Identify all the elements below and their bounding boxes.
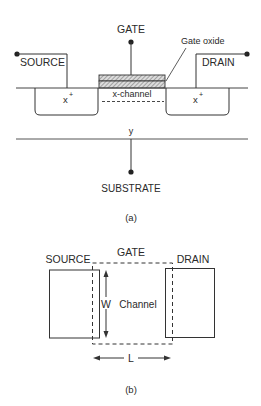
length-arrow-left-icon xyxy=(93,356,100,361)
source-region-label: x xyxy=(63,94,68,105)
gate-label-b: GATE xyxy=(117,246,145,258)
x-channel-label: x-channel xyxy=(112,89,151,99)
substrate: y SUBSTRATE xyxy=(16,126,248,194)
gate-oxide-label: Gate oxide xyxy=(181,36,225,46)
source-region: x + xyxy=(35,88,98,115)
drain-doping-superscript: + xyxy=(199,91,203,98)
y-label: y xyxy=(129,126,134,136)
figure-a-cross-section: GATE Gate oxide SOURCE x + xyxy=(14,23,249,223)
caption-a: (a) xyxy=(125,212,137,223)
channel-region: x-channel xyxy=(102,89,164,102)
mosfet-diagram: GATE Gate oxide SOURCE x + xyxy=(0,0,261,406)
source-label: SOURCE xyxy=(20,56,65,68)
gate-electrode xyxy=(99,75,165,81)
drain-label: DRAIN xyxy=(202,56,235,68)
drain-terminal: DRAIN xyxy=(196,51,250,88)
source-terminal: SOURCE xyxy=(14,51,67,88)
width-dimension: W xyxy=(100,270,112,338)
caption-b: (b) xyxy=(125,384,137,395)
width-arrow-up-icon xyxy=(104,270,109,277)
source-label-b: SOURCE xyxy=(46,253,91,265)
gate-stack xyxy=(99,75,165,88)
gate-oxide-layer xyxy=(99,81,165,88)
gate-terminal: GATE xyxy=(117,23,145,75)
width-label: W xyxy=(101,298,111,310)
width-arrow-down-icon xyxy=(104,331,109,338)
drain-region: x + xyxy=(166,88,229,115)
drain-label-b: DRAIN xyxy=(177,253,210,265)
gate-label: GATE xyxy=(117,23,145,35)
gate-oxide-pointer xyxy=(166,48,186,81)
source-doping-superscript: + xyxy=(69,91,73,98)
drain-region-label: x xyxy=(193,94,198,105)
substrate-label: SUBSTRATE xyxy=(101,183,161,194)
channel-label-b: Channel xyxy=(119,299,156,310)
length-arrow-right-icon xyxy=(164,356,171,361)
substrate-contact-dot xyxy=(128,169,133,174)
figure-b-top-view: SOURCE GATE DRAIN W Channel L (b) xyxy=(46,246,215,395)
length-label: L xyxy=(128,352,134,364)
length-dimension: L xyxy=(93,352,171,364)
